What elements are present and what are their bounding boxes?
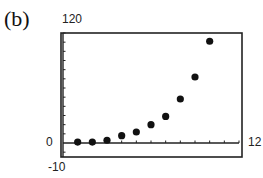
scatter-plot (0, 0, 263, 178)
data-point (103, 137, 110, 144)
data-point (162, 113, 169, 120)
data-point (118, 132, 125, 139)
plot-frame (61, 33, 242, 157)
data-point (147, 121, 154, 128)
data-point (89, 138, 96, 145)
data-point (191, 73, 198, 80)
data-point (133, 128, 140, 135)
data-point (206, 38, 213, 45)
data-point (177, 95, 184, 102)
data-point (74, 138, 81, 145)
